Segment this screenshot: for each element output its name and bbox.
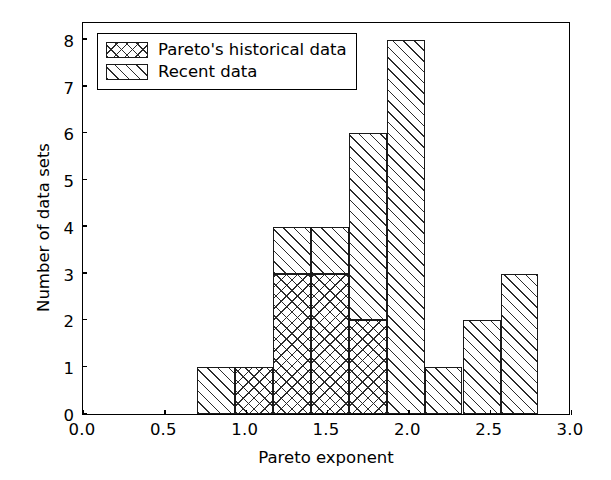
y-tick: [82, 225, 87, 226]
y-tick: [82, 272, 87, 273]
y-tick-label: 1: [48, 359, 74, 378]
x-tick: [490, 410, 491, 415]
x-tick-label: 0.5: [150, 420, 177, 439]
legend-label: Pareto's historical data: [158, 42, 347, 58]
x-tick-label: 2.0: [394, 420, 421, 439]
bar-segment-recent: [501, 274, 539, 414]
diagonal-hatch-swatch: [106, 64, 148, 80]
x-tick: [408, 410, 409, 415]
y-tick: [82, 366, 87, 367]
legend: Pareto's historical data Recent data: [97, 33, 357, 90]
x-tick-label: 2.5: [475, 420, 502, 439]
bar-segment-recent: [425, 367, 463, 414]
x-tick-label: 3.0: [557, 420, 584, 439]
x-axis-label: Pareto exponent: [82, 448, 570, 467]
x-tick-label: 1.0: [231, 420, 258, 439]
histogram-bar: [273, 227, 311, 414]
x-tick: [327, 410, 328, 415]
bar-segment-historical: [349, 320, 387, 414]
bar-segment-recent: [197, 367, 235, 414]
y-tick-label: 0: [48, 406, 74, 425]
histogram-bar: [197, 367, 235, 414]
cross-hatch-swatch: [106, 42, 148, 58]
y-tick-label: 7: [48, 78, 74, 97]
histogram-bar: [311, 227, 349, 414]
legend-label: Recent data: [158, 64, 257, 80]
y-tick: [82, 179, 87, 180]
bar-segment-recent: [387, 40, 425, 414]
y-tick: [82, 319, 87, 320]
legend-item: Recent data: [106, 61, 347, 83]
bar-segment-historical: [311, 274, 349, 414]
y-tick: [82, 38, 87, 39]
y-axis-label: Number of data sets: [34, 123, 53, 333]
x-tick: [571, 410, 572, 415]
x-tick: [246, 410, 247, 415]
x-tick: [164, 410, 165, 415]
histogram-bar: [349, 133, 387, 414]
y-tick: [82, 413, 87, 414]
bar-segment-recent: [463, 320, 501, 414]
legend-item: Pareto's historical data: [106, 39, 347, 61]
bar-segment-recent: [273, 227, 311, 274]
histogram-bar: [463, 320, 501, 414]
bar-segment-historical: [235, 367, 273, 414]
y-tick: [82, 85, 87, 86]
histogram-bar: [501, 274, 539, 414]
histogram-bar: [235, 367, 273, 414]
histogram-bar: [387, 40, 425, 414]
bar-segment-recent: [311, 227, 349, 274]
y-tick: [82, 132, 87, 133]
y-tick-label: 8: [48, 31, 74, 50]
bar-segment-recent: [349, 133, 387, 320]
histogram-bar: [425, 367, 463, 414]
bar-segment-historical: [273, 274, 311, 414]
figure: 0.00.51.01.52.02.53.0 012345678 Pareto e…: [0, 0, 611, 480]
x-tick-label: 1.5: [313, 420, 340, 439]
